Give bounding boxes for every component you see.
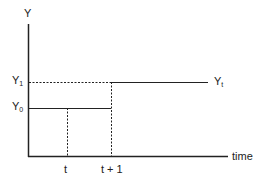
tick-t-label: t xyxy=(64,164,67,175)
yt-label: Yt xyxy=(214,76,223,87)
y0-label-sub: 0 xyxy=(19,106,23,113)
x-axis-label: time xyxy=(232,151,253,162)
y-axis-label: Y xyxy=(24,8,31,19)
y0-label: Y0 xyxy=(12,101,23,112)
tick-t-plus-1-label: t + 1 xyxy=(101,164,123,175)
step-function-diagram xyxy=(0,0,265,176)
yt-label-sub: t xyxy=(221,81,223,88)
y1-label-sub: 1 xyxy=(19,80,23,87)
y1-label: Y1 xyxy=(12,75,23,86)
